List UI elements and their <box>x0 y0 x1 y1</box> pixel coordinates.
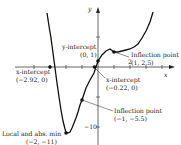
inflection-1-coords: (1, 2.5) <box>131 59 154 66</box>
x-intercept-left-coords: (−2.92, 0) <box>16 76 48 83</box>
x-intercept-left-title: x-intercept <box>16 68 51 76</box>
x-intercept-right-point <box>93 65 97 69</box>
y-axis-arrow-icon <box>96 7 100 13</box>
min-point <box>64 131 68 135</box>
min-coords: (−2, −11) <box>26 138 57 145</box>
y-tick-label: −10 <box>84 123 97 130</box>
x-intercept-right-title: x-intercept <box>106 76 141 84</box>
y-intercept-title: y-intercept <box>61 43 97 51</box>
y-intercept-point <box>96 59 100 63</box>
min-title: Local and abs. min <box>2 130 61 137</box>
y-intercept-coords: (0, 1) <box>80 51 97 58</box>
inflection-2-title: Inflection point <box>114 107 162 115</box>
inflection-1-title: Inflection point <box>131 51 179 59</box>
y-axis-label: y <box>87 5 92 13</box>
x-axis-label: x <box>164 71 168 78</box>
inflection-2-coords: (−1, −5.5) <box>114 115 147 122</box>
x-intercept-right-coords: (−0.22, 0) <box>106 84 138 91</box>
function-graph: y x 2 −10 y-intercept (0, 1) Inflection … <box>0 0 181 145</box>
x-axis-arrow-icon <box>169 65 175 69</box>
